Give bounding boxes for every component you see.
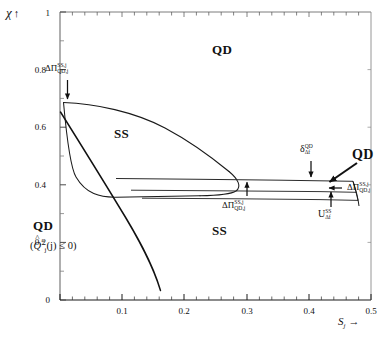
u-ss-affix: SSΔf [325,209,331,220]
curve-horizontal-lower [142,198,358,200]
delta-pi-base-center: ΔΠ [222,200,234,210]
delta-pi-sub-left: QD,j [57,69,68,75]
y-tick-label-0.8: 0.8 [18,65,46,75]
region-label-qd-condition: (^Q*j(j)≤ 0) [30,238,77,254]
top-minor-ticks [72,12,358,17]
u-ss-sub: Δf [325,215,331,221]
arrow-qd-right [330,163,358,182]
curve-ss-lobe-upper [64,103,230,172]
delta-pi-affix-center: SS,jQD,j [234,200,245,211]
annotation-delta-qd: δQDΔf [300,144,313,155]
y-tick-label-1: 1 [22,8,50,18]
region-label-ss-lobe: SS [114,126,129,142]
y-tick-label-0.4: 0.4 [18,180,46,190]
region-label-ss-lower: SS [212,223,227,239]
delta-pi-sub-right: QD,j [359,188,370,194]
x-axis-arrow-icon: → [348,315,359,327]
y-minor-ticks [60,41,64,271]
x-tick-label-0.5: 0.5 [356,306,386,316]
y-tick-label-0.6: 0.6 [18,122,46,132]
x-major-ticks [60,294,371,300]
curve-horizontal-upper [116,179,353,182]
hat-icon: ^ [34,234,42,243]
x-tick-label-0.1: 0.1 [107,306,137,316]
region-label-qd-top: QD [212,42,232,58]
q-relation: ≤ 0) [59,240,76,251]
delta-qd-affix: QDΔf [305,144,313,155]
region-label-qd-bottomleft: QD [33,218,53,234]
x-tick-label-0.2: 0.2 [169,306,199,316]
q-hat-group: ^Q [34,240,42,251]
annotation-delta-pi-left: ΔΠSS,jQD,j [45,63,68,74]
x-tick-label-0.3: 0.3 [232,306,262,316]
delta-pi-sub-center: QD,j [234,206,245,212]
delta-qd-sub: Δf [305,150,313,156]
u-ss-base: U [318,208,325,219]
annotation-delta-pi-right: ΔΠSS,jQD,j [347,182,370,193]
annotation-u-ss: USSΔf [318,209,331,220]
delta-pi-base-left: ΔΠ [45,63,57,73]
delta-pi-base-right: ΔΠ [347,182,359,192]
plot-canvas [0,0,388,337]
y-tick-label-0: 0 [22,295,50,305]
curve-qd-ss-diagonal [61,112,161,291]
delta-pi-affix-right: SS,jQD,j [359,182,370,193]
y-axis-title: χ↑ [6,5,19,21]
annotation-delta-pi-center: ΔΠSS,jQD,j [222,200,245,211]
delta-pi-affix-left: SS,jQD,j [57,63,68,74]
phase-diagram-figure: 1 0.8 0.6 0.4 0.2 0 0.1 0.2 0.3 0.4 0.5 … [0,0,388,337]
x-tick-label-0.4: 0.4 [294,306,324,316]
x-axis-title: Sj→ [338,315,359,330]
curve-ss-lobe-nose [200,172,239,196]
y-axis-arrow-icon: ↑ [14,7,20,19]
q-argument: (j) [47,240,57,251]
x-axis-subscript: j [344,322,346,330]
curve-horizontal-middle [131,190,356,192]
y-axis-symbol: χ [6,5,12,20]
region-label-qd-right: QD [352,147,374,163]
